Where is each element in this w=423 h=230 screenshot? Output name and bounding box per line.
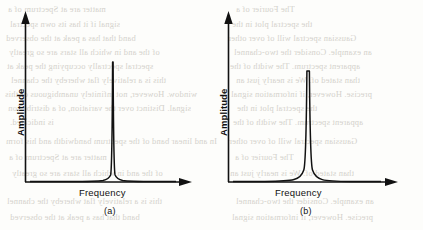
chart-a-peak-curve: [30, 62, 176, 182]
chart-b-x-axis-label: Frequency: [275, 187, 322, 198]
chart-a-caption: (a): [104, 206, 116, 216]
chart-b-plot: [203, 0, 423, 200]
chart-a-y-axis-label: Amplitude: [15, 89, 26, 136]
chart-b: Amplitude Frequency (b): [203, 0, 423, 200]
chart-a-plot: [0, 0, 210, 200]
chart-b-caption: (b): [300, 206, 312, 216]
chart-a: Amplitude Frequency (a): [0, 0, 210, 200]
chart-b-peak-curve: [233, 71, 381, 182]
bleed-text-line: band that has a peak at the observed: [10, 212, 140, 222]
chart-a-x-axis-label: Frequency: [79, 187, 126, 198]
chart-b-y-axis-label: Amplitude: [218, 89, 229, 136]
figure-page: matter are at Spectrum of a signal if it…: [0, 0, 423, 230]
